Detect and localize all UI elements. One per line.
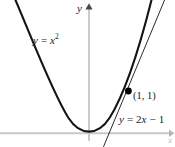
- tangent-constant: 1: [159, 113, 165, 125]
- parabola-equation-label: y=x2: [33, 33, 59, 46]
- tangent-equation-label: y=2x−1: [119, 114, 164, 125]
- math-figure-tangent-line: y=x2 y=2x−1 (1, 1) y x: [0, 0, 175, 147]
- parabola-lhs: y: [33, 34, 38, 46]
- tangent-variable: x: [142, 113, 147, 125]
- parabola-exponent: 2: [55, 32, 59, 41]
- tangent-equals: =: [127, 113, 133, 125]
- y-axis-arrow-icon: [85, 3, 92, 9]
- parabola-curve: [15, 0, 152, 132]
- y-axis-label: y: [77, 3, 82, 14]
- x-axis-label: x: [168, 136, 172, 145]
- tangency-point-marker: [125, 88, 132, 95]
- parabola-equals: =: [41, 34, 47, 46]
- tangent-minus-sign: −: [150, 113, 156, 125]
- point-coordinate-label: (1, 1): [133, 91, 156, 102]
- tangent-lhs: y: [119, 113, 124, 125]
